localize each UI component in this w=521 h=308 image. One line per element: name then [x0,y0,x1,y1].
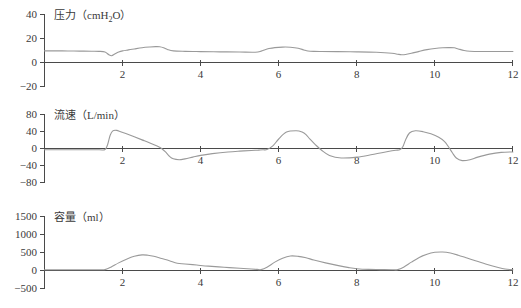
pressure-xtick-label-8: 8 [354,68,360,80]
flow-xtick-label-2: 2 [120,154,126,166]
pressure-xtick-label-2: 2 [120,68,126,80]
flow-waveform-panel: 80 40 0 −40 −80 2 4 6 8 10 12 [0,100,521,202]
volume-xtick-label-8: 8 [354,276,360,288]
volume-x-axis: 2 4 6 8 10 12 [45,268,519,289]
volume-trace [45,252,513,270]
volume-series-label: 容量（ml） [54,210,110,223]
pressure-waveform-panel: 40 20 0 −20 2 4 6 8 10 12 压力（cmH2O） [0,0,521,100]
flow-ytick-label-40: 40 [26,125,38,137]
volume-ytick-label-1500: 1500 [15,210,38,222]
pressure-ytick-label-neg20: −20 [20,80,38,92]
pressure-x-axis: 2 4 6 8 10 12 [45,60,519,81]
flow-ytick-label-80: 80 [26,108,38,120]
flow-x-axis: 2 4 6 8 10 12 [45,146,519,167]
volume-xtick-label-12: 12 [507,276,518,288]
flow-ytick-label-neg40: −40 [20,159,38,171]
flow-series-label: 流速（L/min） [54,108,125,121]
pressure-xtick-label-12: 12 [507,68,518,80]
flow-ytick-label-neg80: −80 [20,176,38,188]
volume-ytick-label-500: 500 [21,246,38,258]
pressure-ytick-label-20: 20 [26,32,38,44]
pressure-ytick-label-0: 0 [32,56,38,68]
pressure-label-main: 压力 [54,9,76,21]
flow-xtick-label-10: 10 [429,154,441,166]
pressure-trace [45,47,513,56]
pressure-series-label: 压力（cmH2O） [54,9,131,24]
flow-chart-svg: 80 40 0 −40 −80 2 4 6 8 10 12 [0,100,521,202]
volume-xtick-label-6: 6 [276,276,282,288]
volume-ytick-label-0: 0 [32,264,38,276]
flow-label-main: 流速 [54,108,76,121]
volume-ytick-label-1000: 1000 [15,228,38,240]
volume-xtick-label-10: 10 [429,276,441,288]
flow-y-axis: 80 40 0 −40 −80 [20,108,45,188]
volume-ytick-label-neg500: −500 [14,282,37,294]
pressure-xtick-label-6: 6 [276,68,282,80]
pressure-y-axis: 40 20 0 −20 [20,8,45,92]
flow-xtick-label-8: 8 [354,154,360,166]
pressure-chart-svg: 40 20 0 −20 2 4 6 8 10 12 压力（cmH2O） [0,0,521,100]
flow-label-unit: （L/min） [76,109,125,121]
volume-label-main: 容量 [54,210,76,223]
pressure-label-unit-prefix: （cmH [76,9,108,21]
volume-xtick-label-2: 2 [120,276,126,288]
volume-xtick-label-4: 4 [198,276,204,288]
pressure-label-unit-suffix: O） [112,9,131,21]
volume-chart-svg: 1500 1000 500 0 −500 2 4 6 8 10 12 [0,202,521,308]
flow-xtick-label-6: 6 [276,154,282,166]
ventilator-waveform-figure: 40 20 0 −20 2 4 6 8 10 12 压力（cmH2O） [0,0,521,308]
pressure-ytick-label-40: 40 [26,8,38,20]
pressure-xtick-label-10: 10 [429,68,441,80]
flow-ytick-label-0: 0 [32,142,38,154]
volume-waveform-panel: 1500 1000 500 0 −500 2 4 6 8 10 12 [0,202,521,308]
flow-xtick-label-12: 12 [507,154,518,166]
volume-label-unit: （ml） [76,211,110,223]
pressure-xtick-label-4: 4 [198,68,204,80]
volume-y-axis: 1500 1000 500 0 −500 [14,210,44,294]
